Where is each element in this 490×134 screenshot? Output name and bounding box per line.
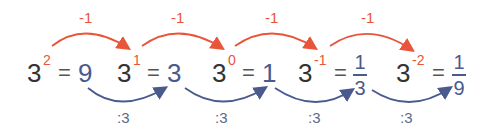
fraction-bar: [353, 74, 367, 76]
denominator: 9: [453, 78, 464, 98]
base: 3: [117, 60, 131, 86]
divide-three-label: :3: [117, 110, 130, 125]
minus-one-arrow-1: [52, 33, 128, 48]
minus-one-label: -1: [171, 10, 184, 25]
minus-one-label: -1: [79, 10, 92, 25]
exponent: 1: [133, 53, 141, 67]
equals-sign: =: [58, 62, 71, 84]
equals-sign: =: [432, 62, 445, 84]
minus-one-arrow-2: [142, 33, 222, 48]
exponent: 0: [228, 53, 236, 67]
divide-three-arrow-2: [185, 88, 265, 102]
value: 1: [262, 60, 276, 86]
base: 3: [212, 60, 226, 86]
base: 3: [27, 60, 41, 86]
divide-three-label: :3: [400, 110, 413, 125]
base: 3: [396, 60, 410, 86]
exponent: 2: [43, 53, 51, 67]
fraction-value: 1 9: [452, 52, 466, 98]
value: 9: [78, 60, 92, 86]
divide-three-label: :3: [215, 110, 228, 125]
base: 3: [298, 60, 312, 86]
minus-one-label: -1: [265, 10, 278, 25]
denominator: 3: [354, 78, 365, 98]
value: 3: [167, 60, 181, 86]
divide-three-arrow-4: [372, 88, 450, 102]
exponent: -1: [314, 53, 326, 67]
minus-one-label: -1: [361, 10, 374, 25]
minus-one-arrow-4: [330, 34, 412, 50]
minus-one-arrow-3: [235, 33, 315, 48]
divide-three-label: :3: [308, 110, 321, 125]
fraction-bar: [452, 74, 466, 76]
equals-sign: =: [334, 62, 347, 84]
divide-three-arrow-3: [275, 88, 352, 102]
fraction-value: 1 3: [353, 52, 367, 98]
numerator: 1: [453, 52, 464, 72]
equals-sign: =: [147, 62, 160, 84]
equals-sign: =: [242, 62, 255, 84]
numerator: 1: [354, 52, 365, 72]
exponent: -2: [412, 53, 424, 67]
divide-three-arrow-1: [88, 88, 165, 102]
